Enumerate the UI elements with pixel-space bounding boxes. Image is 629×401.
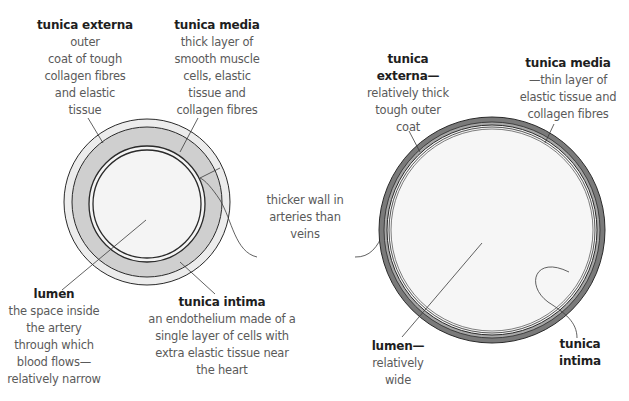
vein-externa-title: tunica — [362, 51, 454, 68]
vein-media-label: tunica media —thin layer of elastic tiss… — [512, 55, 624, 123]
vein-intima-label: tunica intima — [552, 336, 608, 370]
label-line: through which — [0, 337, 108, 354]
artery-lumen-title: lumen — [0, 286, 108, 303]
vein-cross-section — [379, 117, 605, 343]
label-line: arteries than — [255, 209, 355, 226]
vein-externa-title: externa— — [362, 68, 454, 85]
vein-intima-ring-3 — [391, 129, 593, 331]
label-line: single layer of cells with — [146, 328, 298, 345]
artery-cross-section — [64, 119, 230, 285]
artery-lumen-label: lumen the space inside the artery throug… — [0, 286, 108, 388]
label-line: cells, elastic — [160, 68, 274, 85]
vein-intima-title: tunica — [552, 336, 608, 353]
artery-externa-title: tunica externa — [30, 17, 140, 34]
label-line: wide — [368, 372, 428, 389]
vein-intima-title: intima — [552, 353, 608, 370]
label-line: coat — [362, 119, 454, 136]
label-line: relatively — [368, 355, 428, 372]
label-line: tough outer — [362, 102, 454, 119]
label-line: coat of tough — [30, 51, 140, 68]
vein-lumen-label: lumen— relatively wide — [368, 338, 428, 389]
artery-media-title: tunica media — [160, 17, 274, 34]
label-line: an endothelium made of a — [146, 311, 298, 328]
label-line: veins — [255, 226, 355, 243]
label-line: thicker wall in — [255, 192, 355, 209]
label-line: collagen fibres — [30, 68, 140, 85]
label-line: elastic tissue and — [512, 89, 624, 106]
vein-externa-label: tunica externa— relatively thick tough o… — [362, 51, 454, 136]
label-line: tissue and — [160, 85, 274, 102]
artery-intima-inner-ring — [93, 150, 201, 258]
label-line: collagen fibres — [512, 106, 624, 123]
label-line: the artery — [0, 320, 108, 337]
label-line: blood flows— — [0, 354, 108, 371]
wall-comparison-label: thicker wall in arteries than veins — [255, 192, 355, 243]
label-line: and elastic — [30, 85, 140, 102]
label-line: smooth muscle — [160, 51, 274, 68]
label-line: relatively thick — [362, 85, 454, 102]
label-line: the space inside — [0, 303, 108, 320]
artery-intima-title: tunica intima — [146, 294, 298, 311]
artery-intima-label: tunica intima an endothelium made of a s… — [146, 294, 298, 379]
vein-media-title: tunica media — [512, 55, 624, 72]
label-line: outer — [30, 34, 140, 51]
label-line: extra elastic tissue near — [146, 345, 298, 362]
vein-lumen-title: lumen— — [368, 338, 428, 355]
label-line: tissue — [30, 102, 140, 119]
label-line: thick layer of — [160, 34, 274, 51]
label-line: relatively narrow — [0, 371, 108, 388]
artery-externa-label: tunica externa outer coat of tough colla… — [30, 17, 140, 119]
label-line: the heart — [146, 362, 298, 379]
label-line: —thin layer of — [512, 72, 624, 89]
label-line: collagen fibres — [160, 102, 274, 119]
artery-media-label: tunica media thick layer of smooth muscl… — [160, 17, 274, 119]
